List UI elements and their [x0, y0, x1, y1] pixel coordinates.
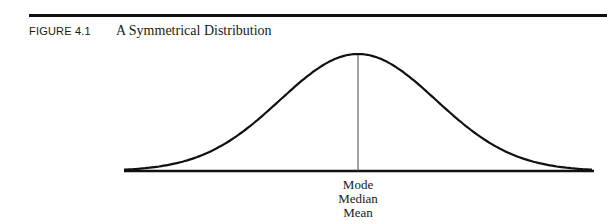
median-label: Median: [318, 192, 398, 206]
distribution-plot: [0, 0, 607, 224]
mode-label: Mode: [318, 178, 398, 192]
central-tendency-labels: Mode Median Mean: [318, 178, 398, 220]
mean-label: Mean: [318, 206, 398, 220]
